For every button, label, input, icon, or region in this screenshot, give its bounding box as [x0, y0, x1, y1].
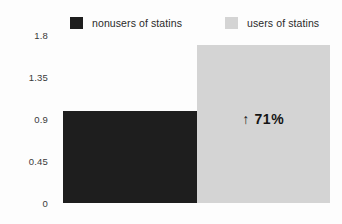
legend-item-nonusers: nonusers of statins — [70, 14, 182, 32]
legend-item-users: users of statins — [225, 14, 319, 32]
legend-swatch-users — [225, 17, 238, 29]
y-tick-label-0-9: 0.9 — [34, 114, 48, 125]
legend-label-nonusers: nonusers of statins — [92, 17, 182, 29]
legend-swatch-nonusers — [70, 17, 83, 29]
y-tick-label-0-45: 0.45 — [29, 156, 48, 167]
y-axis: 1.8 1.35 0.9 0.45 0 — [0, 0, 56, 224]
up-arrow-icon: ↑ — [242, 111, 254, 127]
annotation-value: 71% — [254, 111, 284, 127]
y-tick-label-1-8: 1.8 — [34, 30, 48, 41]
y-tick-label-0: 0 — [43, 198, 48, 209]
plot-area: ↑ 71% — [63, 35, 330, 203]
bar-annotation-71-percent: ↑ 71% — [197, 111, 331, 127]
legend-label-users: users of statins — [247, 17, 319, 29]
y-tick-label-1-35: 1.35 — [29, 72, 48, 83]
bar-chart: nonusers of statins users of statins 1.8… — [0, 0, 342, 224]
bar-nonusers-of-statins — [63, 111, 197, 203]
